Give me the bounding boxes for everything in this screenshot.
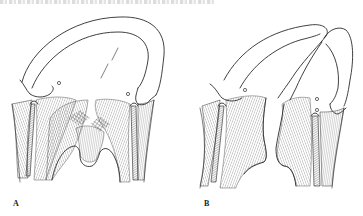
panel-b-port-right-lower bbox=[315, 108, 318, 111]
panel-a-port-right bbox=[126, 92, 129, 95]
panel-b-port-right-upper bbox=[315, 97, 318, 100]
panel-b-right-arch-inner bbox=[290, 42, 322, 100]
panel-a-drawing bbox=[12, 17, 164, 182]
panel-a-inner-arch bbox=[32, 32, 148, 88]
panel-b-left-arch-inner bbox=[240, 34, 320, 88]
panel-b-left-arch-outer bbox=[224, 25, 327, 98]
panel-b-port-left bbox=[243, 88, 246, 91]
panel-b-right-arch-outer bbox=[324, 28, 353, 106]
anatomical-illustration bbox=[0, 0, 363, 216]
panel-a-port-left bbox=[57, 81, 60, 84]
panel-label-a: A bbox=[13, 200, 19, 208]
panel-a-outer-arch bbox=[22, 17, 164, 95]
panel-label-b: B bbox=[204, 200, 209, 208]
panel-b-drawing bbox=[200, 25, 353, 188]
